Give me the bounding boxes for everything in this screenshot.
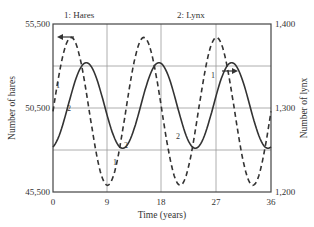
hares-marker-label: 1 — [113, 158, 117, 167]
y-right-axis-label: Number of lynx — [299, 77, 309, 138]
y-right-tick: 1,300 — [275, 103, 296, 113]
hares-marker-label: 1 — [56, 81, 60, 90]
y-left-axis-label: Number of hares — [7, 76, 17, 140]
lynx-marker-label: 2 — [176, 132, 180, 141]
predator-prey-chart: 1 2 2 1 2 1 1: Hares 2: Lynx 55,500 50,5… — [0, 0, 314, 227]
right-arrow-icon — [222, 68, 238, 74]
series-label-lynx: 2: Lynx — [177, 10, 205, 20]
y-left-tick: 55,500 — [25, 19, 50, 29]
hares-series-line — [53, 37, 271, 185]
x-tick: 27 — [212, 197, 222, 207]
x-axis-label: Time (years) — [138, 210, 186, 221]
y-right-tick: 1,400 — [275, 19, 296, 29]
lynx-series-line — [53, 63, 271, 149]
y-left-tick: 50,500 — [25, 103, 50, 113]
hares-marker-label: 1 — [211, 71, 215, 80]
x-tick: 36 — [267, 197, 277, 207]
x-tick: 9 — [105, 197, 110, 207]
x-tick: 18 — [157, 197, 167, 207]
left-arrow-icon — [57, 34, 74, 40]
y-left-tick: 45,500 — [25, 187, 50, 197]
series-label-hares: 1: Hares — [64, 10, 95, 20]
lynx-marker-label: 2 — [124, 141, 128, 150]
x-tick: 0 — [51, 197, 56, 207]
y-right-tick: 1,200 — [275, 187, 296, 197]
lynx-marker-label: 2 — [67, 104, 71, 113]
